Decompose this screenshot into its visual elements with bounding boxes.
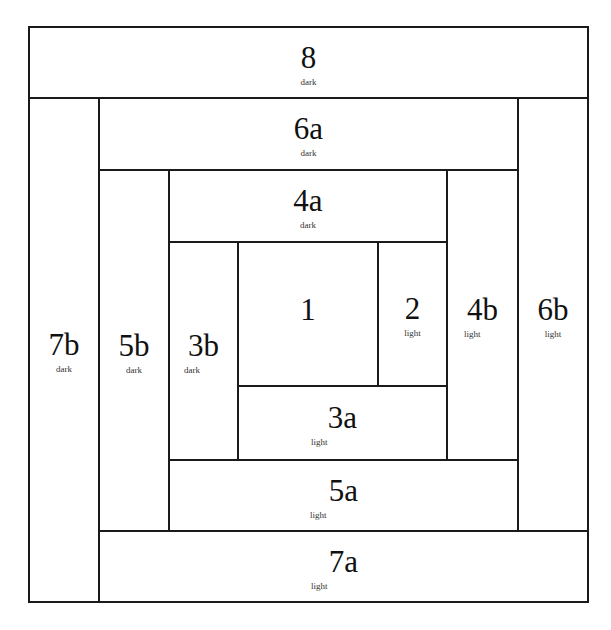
piece-tone: dark <box>170 365 237 375</box>
piece-4b: 4b light <box>446 169 519 461</box>
piece-7b: 7b dark <box>28 97 100 603</box>
piece-number: 2 <box>379 291 446 327</box>
piece-7a: 7a light <box>98 530 589 603</box>
piece-4a: 4a dark <box>168 169 448 243</box>
piece-number: 3a <box>239 400 446 436</box>
piece-tone: dark <box>30 364 98 374</box>
piece-6a: 6a dark <box>98 97 519 171</box>
piece-tone: dark <box>170 220 446 230</box>
piece-2: 2 light <box>377 241 448 387</box>
piece-number: 1 <box>239 292 377 328</box>
piece-5b: 5b dark <box>98 169 170 532</box>
piece-number: 7b <box>30 327 98 363</box>
piece-3b: 3b dark <box>168 241 239 461</box>
piece-number: 4b <box>448 292 517 328</box>
piece-tone: dark <box>100 148 517 158</box>
piece-tone: light <box>239 437 446 447</box>
piece-tone: light <box>170 509 517 519</box>
piece-number: 5b <box>100 327 168 363</box>
piece-3a: 3a light <box>237 385 448 461</box>
piece-number: 7a <box>100 543 587 579</box>
piece-tone: dark <box>30 76 587 86</box>
quilt-block-diagram: 8 dark 7b dark 6a dark 6b light 5b dark <box>28 26 589 603</box>
piece-number: 3b <box>170 328 237 364</box>
piece-tone: light <box>448 329 517 339</box>
piece-number: 6a <box>100 111 517 147</box>
piece-8: 8 dark <box>28 26 589 99</box>
piece-tone: light <box>379 328 446 338</box>
piece-number: 4a <box>170 183 446 219</box>
piece-6b: 6b light <box>517 97 589 532</box>
piece-number: 8 <box>30 39 587 75</box>
piece-5a: 5a light <box>168 459 519 532</box>
piece-number: 5a <box>170 472 517 508</box>
piece-tone: dark <box>100 364 168 374</box>
piece-tone: light <box>100 580 587 590</box>
piece-1: 1 <box>237 241 379 387</box>
piece-number: 6b <box>519 291 587 327</box>
piece-tone: light <box>519 328 587 338</box>
